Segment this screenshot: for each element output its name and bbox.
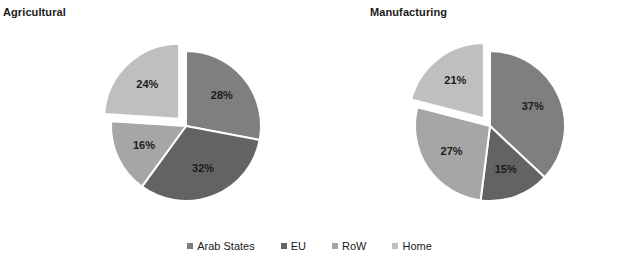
pie-slices-agricultural bbox=[104, 44, 261, 201]
legend-item[interactable]: RoW bbox=[332, 241, 366, 252]
pie-svg-manufacturing: 37%15%27%21% bbox=[380, 26, 600, 226]
legend-item-label: Arab States bbox=[197, 241, 254, 252]
chart-panel-manufacturing: Manufacturing 37%15%27%21% bbox=[304, 0, 619, 232]
pie-slice-label: 24% bbox=[136, 78, 158, 90]
legend-swatch-icon bbox=[332, 243, 338, 249]
pie-slice-label: 27% bbox=[441, 145, 463, 157]
legend-item[interactable]: Home bbox=[392, 241, 431, 252]
legend-item-label: EU bbox=[291, 241, 306, 252]
pie-slice-label: 16% bbox=[133, 139, 155, 151]
pie-chart-agricultural: 28%32%16%24% bbox=[76, 26, 296, 226]
page-title-agricultural: Agricultural bbox=[3, 6, 66, 18]
legend-item[interactable]: Arab States bbox=[187, 241, 254, 252]
chart-panel-agricultural: Agricultural 28%32%16%24% bbox=[0, 0, 310, 232]
legend-item[interactable]: EU bbox=[281, 241, 306, 252]
pie-slice-label: 32% bbox=[192, 162, 214, 174]
pie-slice-label: 21% bbox=[444, 74, 466, 86]
chart-legend: Arab StatesEURoWHome bbox=[0, 237, 619, 255]
legend-item-label: RoW bbox=[342, 241, 366, 252]
pie-slice-label: 15% bbox=[495, 163, 517, 175]
pie-slice-label: 37% bbox=[522, 100, 544, 112]
pie-slice-label: 28% bbox=[211, 89, 233, 101]
pie-svg-agricultural: 28%32%16%24% bbox=[76, 26, 296, 226]
legend-swatch-icon bbox=[281, 243, 287, 249]
page-title-manufacturing: Manufacturing bbox=[370, 6, 447, 18]
legend-item-label: Home bbox=[402, 241, 431, 252]
pie-chart-figure: Agricultural 28%32%16%24% Manufacturing … bbox=[0, 0, 619, 263]
legend-swatch-icon bbox=[392, 243, 398, 249]
legend-swatch-icon bbox=[187, 243, 193, 249]
pie-chart-manufacturing: 37%15%27%21% bbox=[380, 26, 600, 226]
pie-slices-manufacturing bbox=[411, 43, 565, 201]
